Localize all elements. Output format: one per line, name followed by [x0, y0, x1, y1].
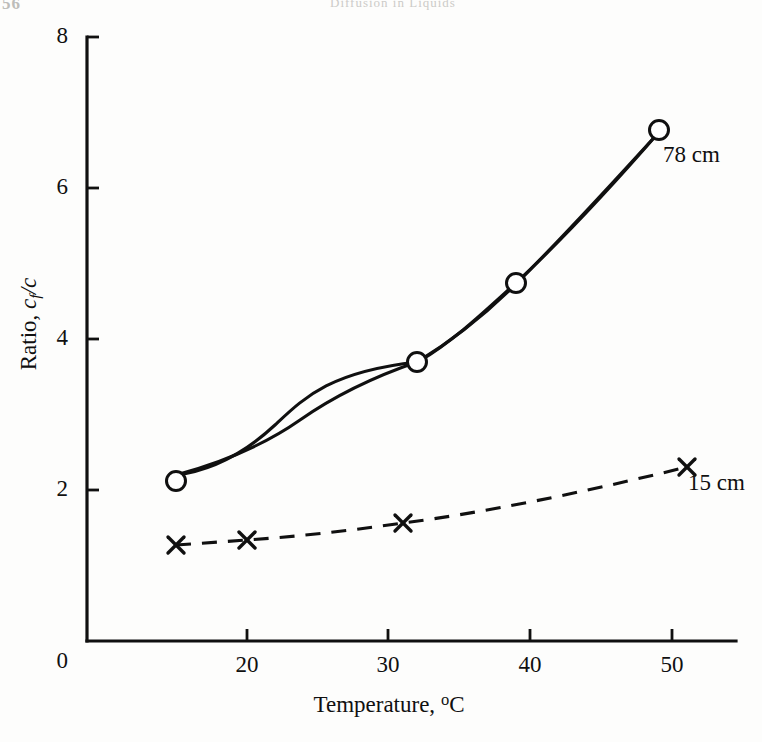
- series-78cm: [167, 121, 669, 491]
- x-axis-ticks: [247, 629, 672, 641]
- y-tick-label: 6: [28, 174, 68, 200]
- degree-symbol-icon: o: [441, 690, 449, 709]
- series-label-78cm: 78 cm: [663, 142, 720, 168]
- series-15cm: [168, 459, 695, 553]
- data-point-marker: [650, 121, 669, 140]
- axis-lines: [87, 37, 736, 641]
- y-axis-denominator: /c: [16, 278, 41, 295]
- x-axis-unit: C: [449, 692, 464, 717]
- x-tick-label: 30: [368, 652, 408, 678]
- data-point-marker: [167, 472, 186, 491]
- y-tick-label: 0: [28, 648, 68, 674]
- x-tick-label: 20: [227, 652, 267, 678]
- y-axis-subscript: f: [26, 294, 43, 298]
- y-axis-ticks: [87, 37, 99, 490]
- x-axis-title-text: Temperature,: [313, 692, 440, 717]
- y-axis-variable: c: [16, 299, 41, 309]
- y-axis-title: Ratio, cf/c: [16, 234, 44, 414]
- figure-container: 56 Diffusion in Liquids: [0, 0, 762, 742]
- x-tick-label: 40: [510, 652, 550, 678]
- y-tick-label: 8: [28, 23, 68, 49]
- series-label-15cm: 15 cm: [688, 470, 745, 496]
- x-tick-label: 50: [652, 652, 692, 678]
- y-axis-title-text: Ratio,: [16, 309, 41, 370]
- x-axis-title: Temperature, oC: [259, 690, 519, 718]
- series-78cm-line-fit: [176, 131, 660, 475]
- y-tick-label: 2: [28, 476, 68, 502]
- data-point-marker: [507, 274, 526, 293]
- chart-canvas: [0, 0, 762, 742]
- data-point-marker: [408, 353, 427, 372]
- series-78cm-line: [176, 131, 660, 475]
